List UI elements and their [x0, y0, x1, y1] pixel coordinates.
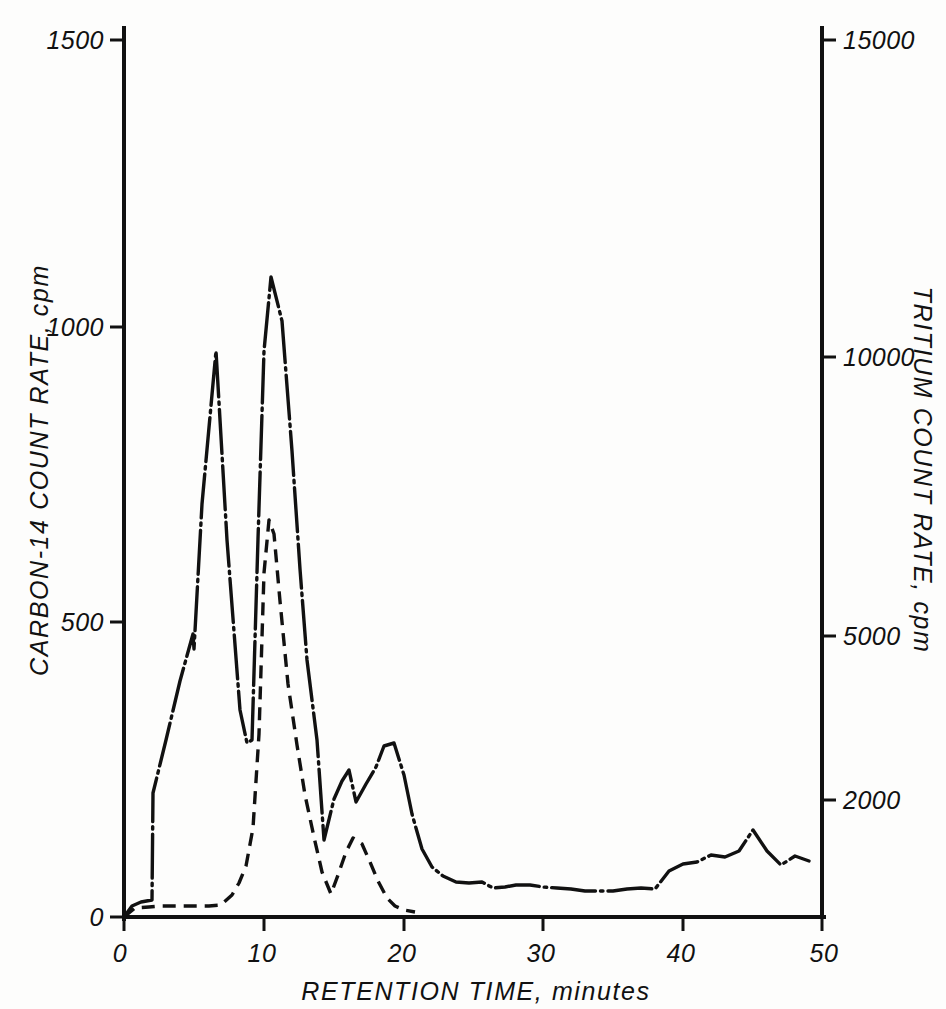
left-tick-label-500: 500 [61, 608, 104, 636]
right-tick-label-10000: 10000 [843, 343, 915, 371]
x-axis-title: RETENTION TIME, minutes [301, 977, 650, 1005]
x-tick-label-50: 50 [810, 939, 839, 967]
series-tritium-line [124, 520, 415, 917]
right-axis-ticks [822, 40, 836, 800]
left-tick-label-1000: 1000 [46, 313, 104, 341]
bottom-axis-tick-labels: 0 10 20 30 40 50 [113, 939, 839, 967]
right-axis-tick-labels: 2000 5000 10000 15000 [842, 26, 915, 814]
right-axis-title: TRITIUM COUNT RATE, cpm [909, 287, 937, 654]
x-tick-label-20: 20 [387, 939, 417, 967]
right-tick-label-2000: 2000 [842, 786, 901, 814]
left-axis-title: CARBON-14 COUNT RATE, cpm [25, 264, 53, 676]
right-tick-label-5000: 5000 [843, 622, 901, 650]
left-axis-ticks [110, 40, 124, 917]
right-tick-label-15000: 15000 [843, 26, 915, 54]
left-axis-tick-labels: 0 500 1000 1500 [46, 26, 104, 931]
left-tick-label-0: 0 [90, 903, 104, 931]
bottom-axis-ticks [124, 917, 822, 931]
x-tick-label-10: 10 [248, 939, 277, 967]
chart-svg: 0 500 1000 1500 2000 5000 10000 15000 [0, 0, 946, 1009]
x-tick-label-30: 30 [527, 939, 556, 967]
x-tick-label-0: 0 [113, 939, 127, 967]
series-carbon14-line [124, 277, 809, 917]
x-tick-label-40: 40 [667, 939, 696, 967]
left-tick-label-1500: 1500 [46, 26, 104, 54]
radiochromatogram-figure: 0 500 1000 1500 2000 5000 10000 15000 [0, 0, 946, 1009]
